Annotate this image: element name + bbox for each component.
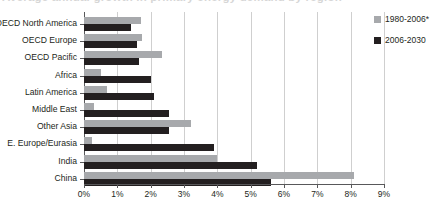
chart-row: OECD North America <box>84 17 384 32</box>
bar-past <box>84 86 107 93</box>
x-tick-label-8: 8% <box>345 189 357 199</box>
chart-title-cropped: Average annual growth in primary energy … <box>0 0 442 7</box>
x-tick-label-3: 3% <box>178 189 190 199</box>
chart-figure: Average annual growth in primary energy … <box>0 0 442 204</box>
x-tick-9 <box>384 184 385 188</box>
legend-item-past: 1980-2006* <box>374 14 442 24</box>
bar-past <box>84 34 142 41</box>
category-label-other-asia: Other Asia <box>37 121 77 131</box>
legend-label-past: 1980-2006* <box>385 14 429 24</box>
x-tick-7 <box>317 184 318 188</box>
legend-label-future: 2006-2030 <box>385 35 426 45</box>
legend-swatch-icon-future <box>374 37 381 44</box>
x-tick-1 <box>117 184 118 188</box>
x-tick-6 <box>284 184 285 188</box>
bar-future <box>84 127 169 134</box>
category-label-oecd-europe: OECD Europe <box>22 35 77 45</box>
x-tick-label-1: 1% <box>111 189 123 199</box>
legend-item-future: 2006-2030 <box>374 35 442 45</box>
bar-future <box>84 58 139 65</box>
chart-row: E. Europe/Eurasia <box>84 137 384 152</box>
x-tick-label-2: 2% <box>145 189 157 199</box>
chart-row: OECD Europe <box>84 34 384 49</box>
x-axis-line <box>84 184 385 185</box>
category-label-africa: Africa <box>55 70 77 80</box>
category-label-oecd-pacific: OECD Pacific <box>24 52 77 62</box>
bar-future <box>84 76 151 83</box>
bar-future <box>84 93 154 100</box>
bar-future <box>84 162 257 169</box>
bar-future <box>84 24 131 31</box>
bar-past <box>84 51 162 58</box>
chart-row: Latin America <box>84 86 384 101</box>
bar-future <box>84 110 169 117</box>
chart-title-text: Average annual growth in primary energy … <box>2 0 342 3</box>
plot-area: OECD North AmericaOECD EuropeOECD Pacifi… <box>84 12 384 184</box>
chart-row: India <box>84 155 384 170</box>
chart-row: Middle East <box>84 103 384 118</box>
x-tick-4 <box>217 184 218 188</box>
x-tick-label-5: 5% <box>245 189 257 199</box>
x-tick-0 <box>84 184 85 188</box>
category-label-oecd-north-america: OECD North America <box>0 18 77 28</box>
x-tick-label-4: 4% <box>211 189 223 199</box>
legend-swatch-icon-past <box>374 16 381 23</box>
bar-past <box>84 120 191 127</box>
chart-legend: 1980-2006* 2006-2030 <box>374 14 442 56</box>
x-tick-3 <box>184 184 185 188</box>
bar-past <box>84 17 141 24</box>
bar-past <box>84 103 94 110</box>
bar-past <box>84 155 217 162</box>
bar-future <box>84 144 214 151</box>
bar-past <box>84 172 354 179</box>
bar-future <box>84 41 137 48</box>
category-label-latin-america: Latin America <box>25 87 77 97</box>
x-tick-label-6: 6% <box>278 189 290 199</box>
category-label-china: China <box>55 173 77 183</box>
chart-row: OECD Pacific <box>84 51 384 66</box>
x-tick-2 <box>151 184 152 188</box>
x-tick-label-7: 7% <box>311 189 323 199</box>
category-label-india: India <box>58 156 77 166</box>
category-label-e-europe-eurasia: E. Europe/Eurasia <box>7 138 77 148</box>
x-tick-5 <box>251 184 252 188</box>
chart-row: Africa <box>84 69 384 84</box>
bar-past <box>84 69 101 76</box>
x-tick-label-9: 9% <box>378 189 390 199</box>
x-tick-label-0: 0% <box>78 189 90 199</box>
bar-past <box>84 137 92 144</box>
x-tick-8 <box>351 184 352 188</box>
category-label-middle-east: Middle East <box>32 104 77 114</box>
chart-row: Other Asia <box>84 120 384 135</box>
